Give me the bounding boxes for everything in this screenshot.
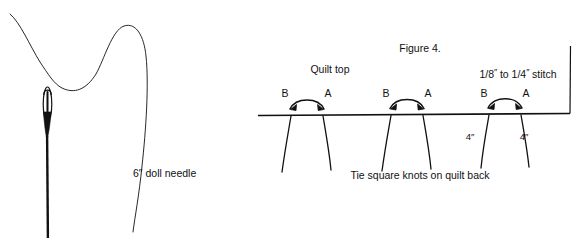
stitch-size-mid: to [500,68,509,80]
stitch-size-label: 1/8″ to 1/4″ stitch [479,68,556,79]
inch-mark-1: ″ [494,67,497,77]
figure-caption: Figure 4. [399,43,440,54]
quilting-figure: 6″ doll needle Figure 4. Quilt top 1/8″ … [0,0,576,238]
thread-curve [10,14,147,232]
thread-tail-b-3 [481,115,489,168]
stitch-group-2 [382,100,431,172]
needle-shaft-taper [43,112,51,140]
quilt-right-edge-line [570,46,571,114]
point-label-b-3: B [480,88,487,99]
needle-label: 6″ doll needle [133,168,196,179]
point-label-b-1: B [281,88,288,99]
inch-mark-2: ″ [526,67,529,77]
doll-needle-illustration [10,14,147,238]
figure-line-art [0,0,576,238]
thread-tail-b-2 [382,116,391,172]
point-label-a-3: A [522,88,529,99]
thread-tail-b-1 [282,116,291,172]
thread-tail-a-1 [323,116,331,170]
point-label-a-2: A [424,88,431,99]
point-label-b-2: B [382,88,389,99]
spacing-label-2: 4″ [520,132,529,142]
spacing-label-1: 4″ [466,132,475,142]
quilt-surface-line [258,114,570,116]
point-label-a-1: A [324,88,331,99]
stitch-size-suffix: stitch [532,68,557,80]
thread-tail-a-2 [423,116,431,170]
bottom-caption: Tie square knots on quilt back [350,170,489,181]
needle-shaft [47,136,48,238]
stitch-diagram [258,46,571,172]
quilt-top-label: Quilt top [310,64,349,75]
stitch-group-1 [282,100,331,172]
